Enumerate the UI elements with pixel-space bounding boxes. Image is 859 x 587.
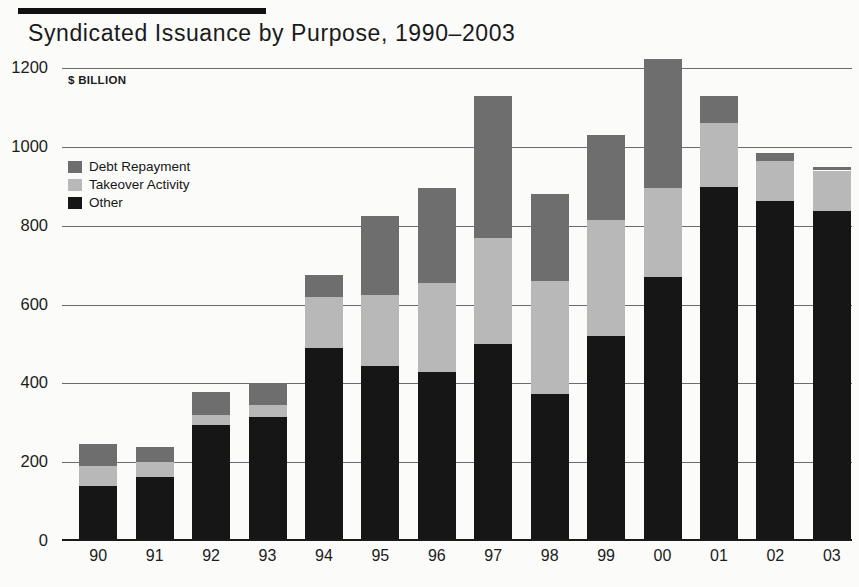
bar-segment[interactable] bbox=[531, 394, 569, 541]
header-rule bbox=[18, 8, 266, 14]
x-axis-tick-label: 90 bbox=[78, 547, 118, 565]
bar-segment[interactable] bbox=[136, 462, 174, 477]
x-axis-tick-label: 93 bbox=[248, 547, 288, 565]
bar-segment[interactable] bbox=[361, 216, 399, 295]
x-axis: 9091929394959697989900010203 bbox=[62, 545, 852, 575]
bar-group[interactable] bbox=[644, 59, 682, 541]
bar-segment[interactable] bbox=[756, 201, 794, 541]
y-axis: 120010008006004002000 bbox=[0, 68, 62, 541]
bar-segment[interactable] bbox=[249, 383, 287, 405]
x-axis-tick-label: 91 bbox=[135, 547, 175, 565]
bar-group[interactable] bbox=[79, 444, 117, 541]
bar-segment[interactable] bbox=[361, 295, 399, 366]
bar-group[interactable] bbox=[249, 383, 287, 541]
bar-segment[interactable] bbox=[249, 417, 287, 541]
bar-segment[interactable] bbox=[531, 281, 569, 395]
bar-segment[interactable] bbox=[813, 211, 851, 541]
page-title: Syndicated Issuance by Purpose, 1990–200… bbox=[28, 20, 516, 47]
legend-swatch-icon bbox=[68, 179, 82, 191]
legend-item[interactable]: Takeover Activity bbox=[68, 176, 258, 193]
x-axis-tick-label: 01 bbox=[699, 547, 739, 565]
bar-segment[interactable] bbox=[474, 238, 512, 344]
bar-segment[interactable] bbox=[700, 96, 738, 124]
bar-segment[interactable] bbox=[587, 220, 625, 336]
bar-group[interactable] bbox=[418, 188, 456, 541]
x-axis-tick-label: 00 bbox=[643, 547, 683, 565]
bar-segment[interactable] bbox=[192, 415, 230, 425]
y-axis-tick-label: 1200 bbox=[2, 59, 48, 76]
x-axis-tick-label: 97 bbox=[473, 547, 513, 565]
bar-segment[interactable] bbox=[418, 188, 456, 283]
bar-group[interactable] bbox=[305, 275, 343, 541]
plot-area bbox=[62, 68, 852, 541]
x-axis-line bbox=[62, 539, 852, 541]
y-axis-tick-label: 400 bbox=[2, 374, 48, 391]
bar-segment[interactable] bbox=[644, 188, 682, 277]
bar-segment[interactable] bbox=[136, 477, 174, 541]
bar-segment[interactable] bbox=[644, 277, 682, 541]
legend-swatch-icon bbox=[68, 161, 82, 173]
bar-segment[interactable] bbox=[418, 283, 456, 372]
legend-item-label: Debt Repayment bbox=[89, 159, 190, 174]
y-axis-tick-label: 600 bbox=[2, 296, 48, 313]
legend-item[interactable]: Debt Repayment bbox=[68, 158, 258, 175]
bar-segment[interactable] bbox=[192, 392, 230, 415]
bar-segment[interactable] bbox=[531, 194, 569, 281]
bar-segment[interactable] bbox=[192, 425, 230, 541]
bar-group[interactable] bbox=[813, 167, 851, 541]
x-axis-tick-label: 94 bbox=[304, 547, 344, 565]
legend-item[interactable]: Other bbox=[68, 194, 258, 211]
bar-segment[interactable] bbox=[79, 486, 117, 541]
bar-group[interactable] bbox=[361, 216, 399, 541]
bar-segment[interactable] bbox=[587, 135, 625, 220]
legend-swatch-icon bbox=[68, 197, 82, 209]
bar-segment[interactable] bbox=[700, 187, 738, 541]
chart-figure: Syndicated Issuance by Purpose, 1990–200… bbox=[0, 0, 859, 587]
y-axis-tick-label: 800 bbox=[2, 217, 48, 234]
bar-segment[interactable] bbox=[305, 348, 343, 541]
bar-segment[interactable] bbox=[361, 366, 399, 541]
bar-segment[interactable] bbox=[79, 466, 117, 486]
bar-segment[interactable] bbox=[474, 344, 512, 541]
y-axis-tick-label: 200 bbox=[2, 453, 48, 470]
bar-segment[interactable] bbox=[587, 336, 625, 541]
bar-segment[interactable] bbox=[756, 153, 794, 161]
chart-legend: Debt RepaymentTakeover ActivityOther bbox=[68, 158, 258, 212]
x-axis-tick-label: 95 bbox=[360, 547, 400, 565]
bar-segment[interactable] bbox=[813, 171, 851, 211]
bar-group[interactable] bbox=[756, 153, 794, 541]
x-axis-tick-label: 98 bbox=[530, 547, 570, 565]
bar-group[interactable] bbox=[531, 194, 569, 541]
bars-container bbox=[62, 68, 852, 541]
y-axis-tick-label: 1000 bbox=[2, 138, 48, 155]
x-axis-tick-label: 96 bbox=[417, 547, 457, 565]
bar-group[interactable] bbox=[474, 96, 512, 541]
x-axis-tick-label: 92 bbox=[191, 547, 231, 565]
bar-segment[interactable] bbox=[756, 161, 794, 202]
bar-segment[interactable] bbox=[136, 447, 174, 462]
bar-segment[interactable] bbox=[474, 96, 512, 238]
y-axis-tick-label: 0 bbox=[2, 532, 48, 549]
bar-segment[interactable] bbox=[249, 405, 287, 417]
legend-item-label: Takeover Activity bbox=[89, 177, 190, 192]
bar-segment[interactable] bbox=[79, 444, 117, 466]
bar-group[interactable] bbox=[192, 392, 230, 541]
bar-segment[interactable] bbox=[644, 59, 682, 188]
x-axis-tick-label: 03 bbox=[812, 547, 852, 565]
bar-segment[interactable] bbox=[700, 123, 738, 187]
x-axis-tick-label: 99 bbox=[586, 547, 626, 565]
bar-group[interactable] bbox=[136, 447, 174, 541]
bar-segment[interactable] bbox=[813, 167, 851, 170]
bar-segment[interactable] bbox=[305, 297, 343, 348]
bar-segment[interactable] bbox=[305, 275, 343, 297]
bar-group[interactable] bbox=[700, 96, 738, 541]
bar-segment[interactable] bbox=[418, 372, 456, 541]
legend-item-label: Other bbox=[89, 195, 123, 210]
x-axis-tick-label: 02 bbox=[755, 547, 795, 565]
bar-group[interactable] bbox=[587, 135, 625, 541]
